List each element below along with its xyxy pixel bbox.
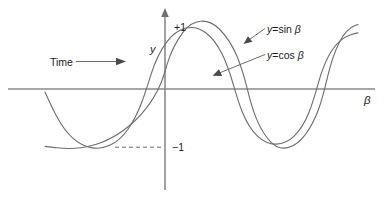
time-arrow-head-icon: [116, 58, 126, 65]
y-axis-label: y: [150, 44, 156, 55]
cosine-curve: [45, 21, 358, 148]
sin-curve-label: y=sin β: [267, 24, 301, 35]
y-tick-label-minus-one: −1: [172, 142, 184, 153]
cos-leader-line: [218, 55, 265, 74]
cos-label-func: cos: [278, 49, 294, 61]
y-tick-label-plus-one: +1: [174, 22, 186, 33]
beta-axis-label: β: [364, 95, 371, 107]
y-axis-arrowhead-icon: [161, 8, 169, 17]
cos-curve-label: y=cos β: [267, 50, 304, 61]
sin-leader-arrowhead-icon: [244, 36, 253, 44]
sin-label-arg: β: [295, 23, 301, 35]
sin-label-func: sin: [278, 23, 291, 35]
sine-cosine-figure: +1 −1 y β Time y=sin β y=cos β: [0, 0, 391, 198]
sine-curve: [45, 27, 358, 148]
time-label: Time: [50, 57, 73, 68]
cos-label-arg: β: [298, 49, 304, 61]
sin-leader-line: [248, 29, 265, 41]
figure-canvas: [0, 0, 391, 198]
